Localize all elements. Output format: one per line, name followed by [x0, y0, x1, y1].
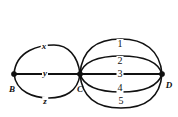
edge-label-x: x: [41, 42, 48, 51]
graph-figure: x y z 1 2 3 4 5 B C D: [0, 0, 178, 117]
vertex-label-b: B: [9, 85, 15, 94]
edge-label-1: 1: [117, 39, 124, 49]
vertex-dot-b: [11, 71, 16, 76]
edge-bc-z: [14, 74, 80, 98]
edge-label-4: 4: [117, 83, 124, 93]
vertex-label-c: C: [77, 85, 83, 94]
edge-label-2: 2: [117, 56, 124, 66]
edge-label-3: 3: [117, 69, 124, 79]
edge-label-y: y: [42, 69, 48, 78]
vertex-dot-d: [159, 71, 164, 76]
vertex-label-d: D: [166, 81, 173, 90]
vertex-dot-c: [77, 71, 82, 76]
edge-label-z: z: [42, 97, 48, 106]
edge-label-5: 5: [118, 96, 125, 106]
graph-canvas: [0, 0, 178, 117]
